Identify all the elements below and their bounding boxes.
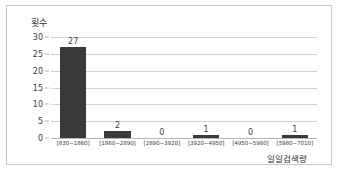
y-axis-tick-label: 15 [33,83,43,92]
y-axis-tick-label: 25 [33,49,43,58]
bar[interactable] [104,131,131,138]
y-axis-tick-label: 5 [38,117,43,126]
y-axis-tick-labels: 051015202530 [7,37,49,138]
bar[interactable] [193,135,220,138]
y-axis-tick [45,138,49,139]
bar-series: 2720101 [51,37,317,138]
y-axis-tick [45,37,49,38]
x-axis-tick-label: [5980~7010] [273,140,317,146]
y-axis-tick [45,121,49,122]
bar[interactable] [60,47,87,138]
bar-value-label: 27 [51,37,95,46]
x-axis-tick-label: [2890~3920] [140,140,184,146]
chart-container: 횟수 051015202530 2720101 [830~1860][1860~… [6,5,332,165]
gridline [51,138,317,139]
bar-value-label: 1 [184,125,228,134]
x-axis-tick-labels: [830~1860][1860~2890][2890~3920][3920~49… [51,140,317,146]
bar[interactable] [282,135,309,138]
y-axis-tick-label: 10 [33,100,43,109]
y-axis-tick [45,70,49,71]
plot-area: 2720101 [51,37,317,138]
y-axis-tick-label: 20 [33,66,43,75]
bar-slot: 1 [184,37,228,138]
x-axis-tick-label: [830~1860] [51,140,95,146]
y-axis-tick [45,104,49,105]
bar-slot: 0 [228,37,272,138]
bar-slot: 0 [140,37,184,138]
bar-slot: 1 [273,37,317,138]
bar-slot: 2 [95,37,139,138]
x-axis-tick-label: [3920~4950] [184,140,228,146]
x-axis-tick-label: [1860~2890] [95,140,139,146]
y-axis-tick-label: 0 [38,134,43,143]
bar-slot: 27 [51,37,95,138]
bar-value-label: 0 [228,128,272,137]
bar-value-label: 2 [95,121,139,130]
bar-value-label: 1 [273,125,317,134]
x-axis-title: 일일검색량 [267,152,307,164]
y-axis-tick [45,53,49,54]
y-axis-tick-label: 30 [33,33,43,42]
x-axis-tick-label: [4950~5980] [228,140,272,146]
y-axis-tick [45,87,49,88]
y-axis-title: 횟수 [31,16,47,29]
bar-value-label: 0 [140,128,184,137]
